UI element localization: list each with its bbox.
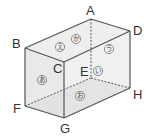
face-label-top-front: え	[55, 42, 64, 51]
vertex-label-G: G	[60, 121, 70, 136]
svg-text:い: い	[95, 67, 102, 75]
vertex-label-D: D	[133, 23, 142, 38]
face-label-front-left: あ	[37, 75, 46, 84]
face-label-top-back: か	[71, 34, 80, 43]
vertex-label-B: B	[12, 36, 21, 51]
vertex-label-F: F	[13, 101, 21, 116]
vertex-label-A: A	[86, 3, 95, 18]
svg-text:う: う	[106, 45, 113, 53]
face-label-right: う	[104, 44, 113, 53]
svg-text:え: え	[57, 43, 64, 51]
face-label-bottom: お	[75, 91, 84, 100]
svg-text:か: か	[73, 35, 80, 43]
vertex-label-E: E	[80, 64, 89, 79]
rectangular-prism-diagram: え か う い あ お A D B C E H F G	[0, 0, 153, 139]
vertex-label-C: C	[53, 61, 62, 76]
svg-text:お: お	[77, 92, 84, 100]
vertex-label-H: H	[133, 87, 142, 102]
svg-text:あ: あ	[39, 76, 46, 84]
face-label-back: い	[93, 66, 102, 75]
